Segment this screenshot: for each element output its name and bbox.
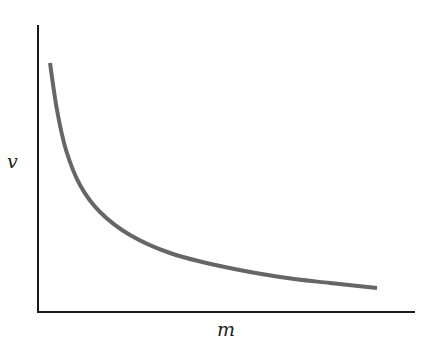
chart-canvas: [0, 0, 425, 353]
data-curve: [50, 63, 377, 288]
x-axis-label: m: [217, 318, 235, 340]
y-axis-label: v: [7, 150, 18, 172]
